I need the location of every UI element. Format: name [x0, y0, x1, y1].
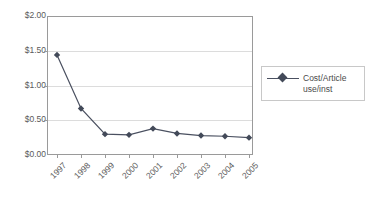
x-tick-mark-2004: [225, 155, 226, 158]
x-tick-mark-2001: [153, 155, 154, 158]
legend-item-label: Cost/Article use/inst: [303, 73, 346, 95]
x-tick-label-2001: 2001: [138, 161, 164, 187]
legend-marker-sample: [278, 73, 288, 83]
x-tick-mark-2002: [177, 155, 178, 158]
x-tick-label-2003: 2003: [186, 161, 212, 187]
x-tick-mark-2005: [249, 155, 250, 158]
x-tick-mark-1999: [105, 155, 106, 158]
x-tick-label-2005: 2005: [234, 161, 260, 187]
x-tick-mark-1997: [57, 155, 58, 158]
x-tick-label-1997: 1997: [42, 161, 68, 187]
x-tick-label-2000: 2000: [114, 161, 140, 187]
x-tick-label-2002: 2002: [162, 161, 188, 187]
legend: Cost/Article use/inst: [261, 66, 365, 101]
x-tick-label-1999: 1999: [90, 161, 116, 187]
x-tick-mark-2000: [129, 155, 130, 158]
x-tick-label-2004: 2004: [210, 161, 236, 187]
line-chart: $2.00 $1.50 $1.00 $0.50 $0.00 1997 1998 …: [0, 0, 371, 200]
x-tick-label-1998: 1998: [66, 161, 92, 187]
legend-diamond-marker-icon: [267, 74, 299, 84]
x-tick-mark-1998: [81, 155, 82, 158]
x-tick-mark-2003: [201, 155, 202, 158]
